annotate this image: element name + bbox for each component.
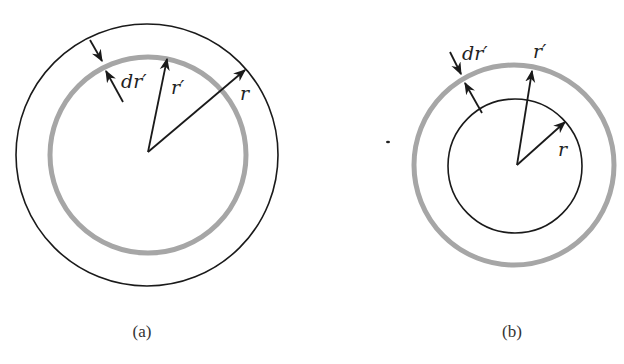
dr-prime-label: dr′ [121, 70, 147, 92]
caption-a: (a) [133, 322, 152, 341]
r-prime-arrow [517, 71, 532, 165]
panel-a: dr′ r′ r (a) [16, 24, 278, 341]
scan-speck [386, 141, 390, 143]
r-prime-label: r′ [171, 76, 185, 98]
dr-prime-outer-arrow [90, 40, 102, 61]
shell-circle [50, 57, 246, 253]
outer-boundary-circle [16, 24, 278, 286]
shell-circle [414, 65, 614, 265]
panel-b: dr′ r′ r (b) [414, 40, 614, 341]
caption-b: (b) [502, 322, 522, 341]
dr-prime-label: dr′ [462, 42, 488, 64]
inner-boundary-circle [448, 99, 582, 233]
r-label: r [558, 138, 569, 160]
r-label: r [240, 82, 251, 104]
spherical-shell-diagram: dr′ r′ r (a) dr′ r′ r (b) [0, 0, 624, 364]
r-prime-label: r′ [533, 40, 547, 62]
dr-prime-outer-arrow [450, 52, 461, 74]
dr-prime-inner-arrow [465, 83, 482, 113]
